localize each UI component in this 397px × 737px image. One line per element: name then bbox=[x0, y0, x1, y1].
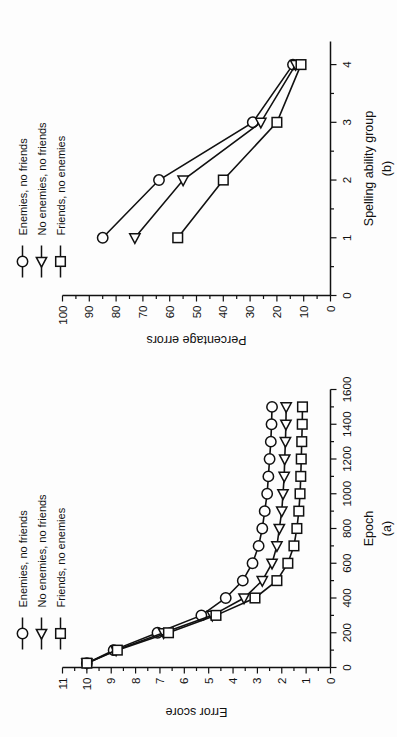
y-tick-label: 40 bbox=[217, 305, 229, 318]
y-tick-label: 70 bbox=[136, 305, 148, 318]
data-point-triangle bbox=[277, 489, 287, 499]
data-point-square bbox=[294, 506, 304, 516]
x-tick-label: 0 bbox=[340, 292, 352, 298]
data-point-triangle bbox=[177, 176, 187, 186]
data-point-square bbox=[112, 645, 122, 655]
x-tick-label: 1600 bbox=[340, 376, 352, 402]
data-point-circle bbox=[265, 436, 275, 446]
panel-b-label: (b) bbox=[379, 160, 393, 175]
panel-a: 02004006008001000120014001600 0123456789… bbox=[0, 369, 397, 729]
data-point-circle bbox=[263, 471, 273, 481]
y-tick-label: 2 bbox=[275, 677, 287, 683]
legend-label: Enemies, no friends bbox=[16, 509, 28, 607]
legend-label: Enemies, no friends bbox=[16, 137, 28, 235]
series-line-circle bbox=[102, 64, 292, 237]
data-point-circle bbox=[266, 401, 276, 411]
panel-b-x-axis-title: Spelling ability group bbox=[361, 110, 375, 225]
panel-a-legend: Enemies, no friendsNo enemies, no friend… bbox=[16, 493, 66, 649]
panel-a-series-group bbox=[81, 401, 307, 668]
data-point-square bbox=[296, 454, 306, 464]
data-point-triangle bbox=[280, 437, 290, 447]
y-tick-label: 1 bbox=[300, 677, 312, 683]
data-point-circle bbox=[264, 453, 274, 463]
data-point-triangle bbox=[274, 524, 284, 534]
data-point-triangle bbox=[129, 233, 139, 243]
legend-label: Friends, no enemies bbox=[54, 507, 66, 607]
y-tick-label: 8 bbox=[129, 677, 141, 683]
series-line-square bbox=[177, 64, 300, 237]
data-point-square bbox=[297, 402, 307, 412]
data-point-triangle bbox=[281, 402, 291, 412]
panel-b-y-axis-title: Percentage errors bbox=[146, 332, 246, 346]
legend-circle-open-marker bbox=[17, 628, 27, 638]
legend-square-open-marker bbox=[55, 628, 65, 638]
y-tick-label: 20 bbox=[270, 305, 282, 318]
panel-b-svg: 01234 0102030405060708090100 Spelling ab… bbox=[0, 7, 397, 357]
y-tick-label: 30 bbox=[244, 305, 256, 318]
legend-label: No enemies, no friends bbox=[35, 121, 47, 235]
panel-a-x-axis-title: Epoch bbox=[361, 510, 375, 545]
data-point-circle bbox=[153, 174, 163, 184]
x-tick-label: 2 bbox=[340, 176, 352, 182]
panel-a-svg: 02004006008001000120014001600 0123456789… bbox=[0, 369, 397, 729]
data-point-circle bbox=[220, 592, 230, 602]
series-line-triangle bbox=[86, 406, 285, 662]
data-point-square bbox=[283, 558, 293, 568]
x-tick-label: 3 bbox=[340, 119, 352, 125]
panel-b-axes bbox=[62, 41, 330, 295]
data-point-circle bbox=[247, 558, 257, 568]
rotated-figure: 02004006008001000120014001600 0123456789… bbox=[0, 0, 397, 737]
data-point-circle bbox=[261, 488, 271, 498]
data-point-triangle bbox=[266, 559, 276, 569]
figure-canvas: 02004006008001000120014001600 0123456789… bbox=[0, 0, 397, 737]
x-tick-label: 1 bbox=[340, 234, 352, 240]
x-tick-label: 600 bbox=[340, 553, 352, 572]
data-point-circle bbox=[97, 232, 107, 242]
y-tick-label: 90 bbox=[83, 305, 95, 318]
panel-a-y-ticks: 01234567891011 bbox=[56, 667, 336, 690]
y-tick-label: 5 bbox=[202, 677, 214, 683]
y-tick-label: 50 bbox=[190, 305, 202, 318]
series-line-circle bbox=[86, 406, 271, 662]
x-tick-label: 1000 bbox=[340, 480, 352, 506]
panel-b-legend: Enemies, no friendsNo enemies, no friend… bbox=[16, 121, 66, 277]
panel-b-x-ticks: 01234 bbox=[330, 60, 352, 298]
data-point-circle bbox=[266, 419, 276, 429]
data-point-square bbox=[272, 117, 282, 127]
y-tick-label: 11 bbox=[56, 677, 68, 689]
panel-a-y-axis-title: Error score bbox=[165, 704, 227, 718]
x-tick-label: 200 bbox=[340, 623, 352, 642]
data-point-circle bbox=[259, 505, 269, 515]
data-point-square bbox=[163, 627, 173, 637]
data-point-square bbox=[289, 541, 299, 551]
legend-triangle-open-marker bbox=[36, 629, 46, 639]
data-point-square bbox=[296, 436, 306, 446]
panel-a-axes bbox=[62, 389, 330, 667]
data-point-triangle bbox=[279, 472, 289, 482]
x-tick-label: 0 bbox=[340, 664, 352, 670]
panel-b: 01234 0102030405060708090100 Spelling ab… bbox=[0, 7, 397, 357]
data-point-square bbox=[272, 575, 282, 585]
legend-label: No enemies, no friends bbox=[35, 493, 47, 607]
data-point-square bbox=[250, 593, 260, 603]
x-tick-label: 1400 bbox=[340, 411, 352, 437]
y-tick-label: 100 bbox=[56, 305, 68, 324]
data-point-square bbox=[297, 419, 307, 429]
panel-b-series-group bbox=[97, 59, 305, 243]
y-tick-label: 10 bbox=[297, 305, 309, 318]
y-tick-label: 4 bbox=[227, 676, 239, 683]
data-point-triangle bbox=[280, 420, 290, 430]
data-point-circle bbox=[257, 523, 267, 533]
y-tick-label: 6 bbox=[178, 677, 190, 683]
panel-a-x-ticks: 02004006008001000120014001600 bbox=[330, 376, 352, 670]
data-point-circle bbox=[253, 540, 263, 550]
data-point-square bbox=[218, 175, 228, 185]
data-point-triangle bbox=[271, 541, 281, 551]
y-tick-label: 7 bbox=[153, 677, 165, 683]
data-point-square bbox=[172, 232, 182, 242]
data-point-triangle bbox=[276, 507, 286, 517]
data-point-square bbox=[82, 658, 92, 668]
y-tick-label: 80 bbox=[110, 305, 122, 318]
y-tick-label: 0 bbox=[324, 305, 336, 311]
y-tick-label: 0 bbox=[324, 677, 336, 683]
